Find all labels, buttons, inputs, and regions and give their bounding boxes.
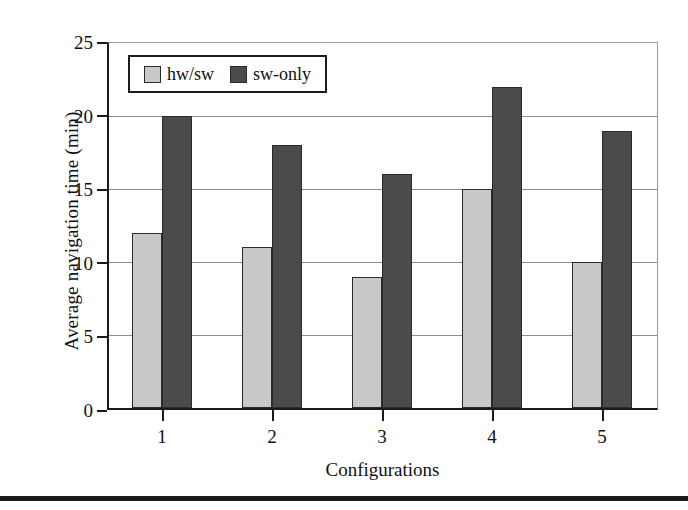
y-tick-mark-25 — [97, 42, 107, 44]
bar-swonly-1 — [162, 116, 192, 408]
y-tick-label-20: 20 — [53, 107, 93, 126]
bar-hwsw-4 — [462, 189, 492, 408]
y-axis-title: Average navigation time (min) — [61, 41, 83, 421]
figure: Average navigation time (min) 25 20 15 1… — [0, 0, 688, 510]
legend-label-hwsw: hw/sw — [167, 65, 214, 83]
legend-entry-hwsw: hw/sw — [144, 65, 214, 83]
y-tick-label-10: 10 — [53, 254, 93, 273]
y-tick-mark-0 — [97, 410, 107, 412]
bottom-divider-rule — [0, 496, 688, 501]
x-tick-label-2: 2 — [242, 427, 302, 446]
x-tick-label-4: 4 — [462, 427, 522, 446]
bar-hwsw-5 — [572, 262, 602, 408]
bar-swonly-2 — [272, 145, 302, 408]
x-tick-label-3: 3 — [352, 427, 412, 446]
y-tick-label-5: 5 — [53, 327, 93, 346]
legend-swatch-icon-swonly — [230, 66, 247, 83]
bar-hwsw-2 — [242, 247, 272, 408]
x-tick-mark-1 — [162, 410, 164, 421]
x-tick-mark-4 — [492, 410, 494, 421]
bar-swonly-3 — [382, 174, 412, 408]
legend-swatch-icon-hwsw — [144, 66, 161, 83]
legend-label-swonly: sw-only — [253, 65, 311, 83]
y-tick-mark-5 — [97, 336, 107, 338]
bar-swonly-5 — [602, 131, 632, 408]
x-tick-mark-5 — [602, 410, 604, 421]
bar-hwsw-3 — [352, 277, 382, 408]
x-tick-mark-2 — [272, 410, 274, 421]
y-tick-label-25: 25 — [53, 33, 93, 52]
y-tick-label-15: 15 — [53, 180, 93, 199]
plot-area — [107, 42, 658, 410]
x-axis-title: Configurations — [107, 459, 658, 481]
bar-swonly-4 — [492, 87, 522, 408]
x-tick-mark-3 — [382, 410, 384, 421]
x-tick-label-5: 5 — [572, 427, 632, 446]
y-tick-mark-10 — [97, 262, 107, 264]
legend: hw/sw sw-only — [128, 55, 327, 93]
legend-entry-swonly: sw-only — [230, 65, 311, 83]
y-tick-label-0: 0 — [53, 401, 93, 420]
y-tick-mark-15 — [97, 189, 107, 191]
bar-hwsw-1 — [132, 233, 162, 408]
x-tick-label-1: 1 — [132, 427, 192, 446]
y-tick-mark-20 — [97, 115, 107, 117]
